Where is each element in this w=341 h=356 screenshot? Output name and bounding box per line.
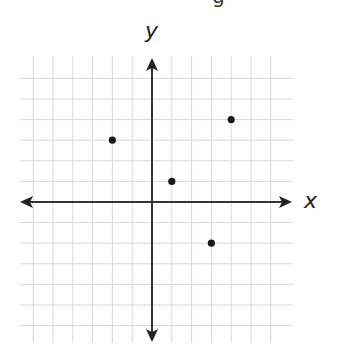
data-point: [228, 116, 235, 123]
data-point: [208, 240, 215, 247]
y-axis-label: y: [145, 20, 158, 42]
coordinate-plane: [0, 0, 341, 356]
data-point: [168, 178, 175, 185]
data-point: [109, 137, 116, 144]
grid-lines: [20, 56, 293, 343]
x-axis-label: x: [304, 190, 317, 212]
